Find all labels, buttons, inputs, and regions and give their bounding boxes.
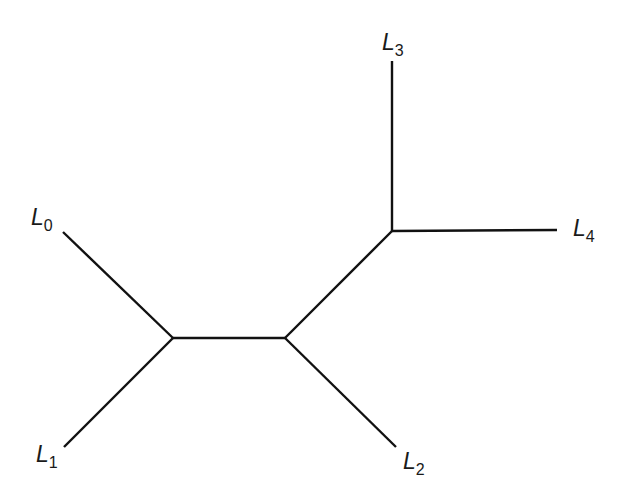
leaf-labels: L0 L1 L2 L3 L4 (31, 29, 595, 478)
leaf-label-l0-base: L (31, 204, 44, 230)
edge-c-l4 (392, 230, 557, 231)
leaf-label-l2-base: L (403, 448, 416, 474)
edges (63, 61, 557, 447)
leaf-label-l4-base: L (573, 215, 586, 241)
leaf-label-l3: L3 (382, 29, 404, 59)
leaf-label-l3-sub: 3 (395, 42, 404, 59)
edge-a-l0 (63, 232, 173, 338)
phylogenetic-tree-diagram: L0 L1 L2 L3 L4 (0, 0, 629, 500)
leaf-label-l1-sub: 1 (49, 454, 58, 471)
leaf-label-l1-base: L (36, 441, 49, 467)
edge-b-l2 (285, 338, 396, 447)
leaf-label-l2-sub: 2 (416, 461, 425, 478)
leaf-label-l4-sub: 4 (586, 228, 595, 245)
leaf-label-l4: L4 (573, 215, 595, 245)
leaf-label-l1: L1 (36, 441, 58, 471)
leaf-label-l0: L0 (31, 204, 53, 234)
leaf-label-l0-sub: 0 (44, 217, 53, 234)
leaf-label-l3-base: L (382, 29, 395, 55)
leaf-label-l2: L2 (403, 448, 425, 478)
edge-a-l1 (64, 338, 173, 447)
edge-b-c (285, 231, 392, 338)
